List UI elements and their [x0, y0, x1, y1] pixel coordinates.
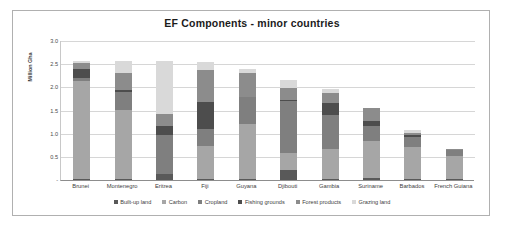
bar-segment[interactable] — [239, 97, 256, 124]
bar-segment[interactable] — [280, 80, 297, 88]
legend-item[interactable]: Carbon — [162, 199, 187, 205]
chart-legend: Built-up landCarbonCroplandFishing groun… — [13, 199, 491, 205]
x-axis-label: Guyana — [226, 183, 267, 189]
legend-item[interactable]: Fishing grounds — [238, 199, 284, 205]
bar-segment[interactable] — [280, 88, 297, 101]
bar-segment[interactable] — [404, 147, 421, 179]
legend-label: Cropland — [205, 199, 228, 205]
bar-slot — [227, 41, 268, 180]
bar-segment[interactable] — [115, 110, 132, 179]
y-axis-tick-label: 0.5 — [18, 154, 58, 160]
x-axis-label: French Guiana — [433, 183, 474, 189]
bar-segment[interactable] — [73, 81, 90, 178]
bar-segment[interactable] — [156, 126, 173, 134]
bar-segment[interactable] — [322, 115, 339, 149]
plot-area: -0.51.01.52.02.53.0 — [60, 41, 474, 181]
bar-slot — [185, 41, 226, 180]
bar-segment[interactable] — [322, 103, 339, 115]
stacked-bar[interactable] — [446, 149, 463, 180]
x-axis-label: Eritrea — [143, 183, 184, 189]
bar-segment[interactable] — [404, 179, 421, 180]
bar-slot — [61, 41, 102, 180]
stacked-bar[interactable] — [156, 61, 173, 180]
bar-slot — [268, 41, 309, 180]
bar-segment[interactable] — [197, 62, 214, 70]
x-axis-label: Fiji — [184, 183, 225, 189]
stacked-bar[interactable] — [322, 89, 339, 180]
bar-segment[interactable] — [322, 179, 339, 180]
x-axis-label: Barbados — [391, 183, 432, 189]
x-axis-labels: BruneiMontenegroEritreaFijiGuyanaDjibout… — [60, 183, 474, 189]
bar-segment[interactable] — [156, 174, 173, 180]
legend-swatch-icon — [352, 200, 356, 204]
chart-frame: EF Components - minor countries Million … — [12, 10, 490, 216]
stacked-bar[interactable] — [115, 61, 132, 180]
legend-swatch-icon — [238, 200, 242, 204]
bar-slot — [102, 41, 143, 180]
bar-segment[interactable] — [280, 101, 297, 153]
bar-slot — [351, 41, 392, 180]
bar-segment[interactable] — [446, 156, 463, 179]
bar-segment[interactable] — [156, 61, 173, 113]
chart-title: EF Components - minor countries — [13, 17, 491, 29]
legend-label: Built-up land — [120, 199, 151, 205]
bar-slot — [144, 41, 185, 180]
legend-swatch-icon — [198, 200, 202, 204]
x-axis-label: Djibouti — [267, 183, 308, 189]
y-axis-tick-label: - — [18, 177, 58, 183]
stacked-bar[interactable] — [197, 62, 214, 180]
bar-segment[interactable] — [115, 61, 132, 73]
bar-segment[interactable] — [239, 124, 256, 178]
bar-segment[interactable] — [197, 179, 214, 180]
bar-slot — [434, 41, 475, 180]
bar-segment[interactable] — [73, 69, 90, 78]
stacked-bar[interactable] — [363, 108, 380, 180]
bar-segment[interactable] — [197, 129, 214, 146]
y-axis-tick-label: 3.0 — [18, 38, 58, 44]
bar-segment[interactable] — [363, 141, 380, 178]
bar-segment[interactable] — [239, 73, 256, 96]
legend-item[interactable]: Grazing land — [352, 199, 390, 205]
bar-segment[interactable] — [363, 108, 380, 121]
y-axis-tick-label: 1.0 — [18, 131, 58, 137]
bar-segment[interactable] — [197, 70, 214, 102]
bar-segment[interactable] — [363, 126, 380, 141]
bar-segment[interactable] — [404, 137, 421, 147]
x-axis-label: Gambia — [308, 183, 349, 189]
legend-item[interactable]: Forest products — [296, 199, 341, 205]
bar-segment[interactable] — [363, 178, 380, 180]
y-axis-tick-label: 2.0 — [18, 84, 58, 90]
x-axis-label: Suriname — [350, 183, 391, 189]
bar-segment[interactable] — [156, 114, 173, 127]
bar-segment[interactable] — [446, 179, 463, 180]
bar-segment[interactable] — [115, 92, 132, 111]
bar-segment[interactable] — [197, 102, 214, 128]
legend-swatch-icon — [114, 200, 118, 204]
stacked-bar[interactable] — [404, 130, 421, 180]
legend-label: Carbon — [169, 199, 187, 205]
bar-segment[interactable] — [115, 179, 132, 180]
bar-segment[interactable] — [322, 149, 339, 179]
legend-item[interactable]: Built-up land — [114, 199, 152, 205]
stacked-bar[interactable] — [73, 61, 90, 180]
bar-segment[interactable] — [239, 179, 256, 180]
y-axis-tick-label: 1.5 — [18, 108, 58, 114]
x-axis-label: Brunei — [60, 183, 101, 189]
bar-segment[interactable] — [322, 93, 339, 103]
x-axis-label: Montenegro — [101, 183, 142, 189]
stacked-bar[interactable] — [239, 69, 256, 180]
legend-label: Forest products — [302, 199, 341, 205]
bar-segment[interactable] — [280, 170, 297, 180]
bar-segment[interactable] — [73, 179, 90, 180]
bar-segment[interactable] — [156, 135, 173, 174]
bar-series-container — [61, 41, 475, 180]
legend-label: Fishing grounds — [245, 199, 285, 205]
legend-item[interactable]: Cropland — [198, 199, 227, 205]
bar-segment[interactable] — [197, 146, 214, 179]
y-axis-tick-label: 2.5 — [18, 61, 58, 67]
bar-slot — [392, 41, 433, 180]
bar-segment[interactable] — [280, 153, 297, 170]
legend-label: Grazing land — [359, 199, 391, 205]
bar-segment[interactable] — [115, 73, 132, 90]
stacked-bar[interactable] — [280, 80, 297, 181]
